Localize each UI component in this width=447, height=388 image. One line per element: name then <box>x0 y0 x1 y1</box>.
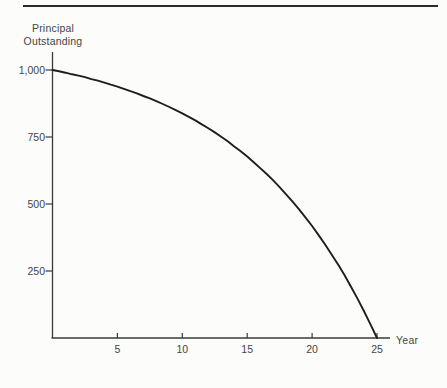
x-axis-title: Year <box>396 334 418 346</box>
x-tick-label: 5 <box>102 343 132 355</box>
x-tick-label: 15 <box>232 343 262 355</box>
x-tick-label: 20 <box>297 343 327 355</box>
y-tick-label: 750 <box>0 131 45 143</box>
amortization-figure: Principal Outstanding 1,0007505002505101… <box>0 0 447 388</box>
y-tick-label: 500 <box>0 198 45 210</box>
y-tick-label: 250 <box>0 265 45 277</box>
principal-outstanding-curve <box>53 70 378 338</box>
x-tick-label: 10 <box>167 343 197 355</box>
y-tick-label: 1,000 <box>0 64 45 76</box>
principal-outstanding-curve-chart <box>0 0 447 388</box>
x-tick-label: 25 <box>362 343 392 355</box>
